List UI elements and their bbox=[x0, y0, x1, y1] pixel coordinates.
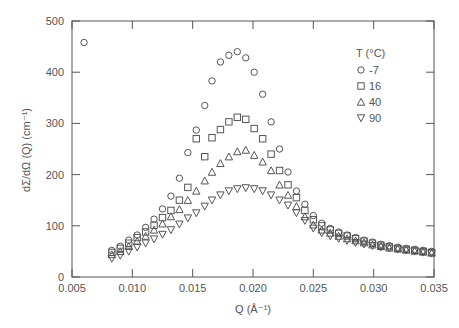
triangle-up-marker bbox=[176, 206, 183, 213]
triangle-down-marker bbox=[301, 217, 308, 224]
triangle-down-marker bbox=[357, 115, 364, 122]
square-marker bbox=[226, 119, 232, 125]
triangle-down-marker bbox=[267, 192, 274, 199]
triangle-up-marker bbox=[234, 148, 241, 155]
triangle-up-marker bbox=[201, 177, 208, 184]
triangle-up-marker bbox=[225, 153, 232, 160]
y-tick-label: 400 bbox=[46, 66, 64, 78]
circle-marker bbox=[293, 188, 299, 194]
circle-marker bbox=[276, 146, 282, 152]
square-marker bbox=[276, 167, 282, 173]
triangle-up-marker bbox=[193, 187, 200, 194]
circle-marker bbox=[243, 55, 249, 61]
x-tick-label: 0.025 bbox=[300, 282, 328, 294]
square-marker bbox=[293, 194, 299, 200]
x-tick-label: 0.015 bbox=[179, 282, 207, 294]
y-tick-label: 0 bbox=[58, 271, 64, 283]
circle-marker bbox=[358, 67, 364, 73]
series-40 bbox=[108, 146, 435, 257]
triangle-up-marker bbox=[142, 232, 149, 239]
legend: T (°C) -7164090 bbox=[356, 47, 385, 124]
triangle-up-marker bbox=[242, 146, 249, 153]
triangle-down-marker bbox=[208, 197, 215, 204]
x-axis-label: Q (Å⁻¹) bbox=[235, 303, 271, 315]
circle-marker bbox=[176, 175, 182, 181]
circle-marker bbox=[202, 102, 208, 108]
square-marker bbox=[259, 136, 265, 142]
legend-label: -7 bbox=[369, 64, 379, 76]
square-marker bbox=[176, 197, 182, 203]
circle-marker bbox=[226, 52, 232, 58]
triangle-down-marker bbox=[193, 210, 200, 217]
triangle-up-marker bbox=[284, 191, 291, 198]
square-marker bbox=[268, 151, 274, 157]
legend-label: 90 bbox=[369, 112, 381, 124]
circle-marker bbox=[151, 216, 157, 222]
x-tick-label: 0.035 bbox=[420, 282, 448, 294]
square-marker bbox=[285, 182, 291, 188]
y-tick-label: 300 bbox=[46, 117, 64, 129]
triangle-down-marker bbox=[276, 197, 283, 204]
circle-marker bbox=[209, 78, 215, 84]
circle-marker bbox=[234, 49, 240, 55]
x-tick-label: 0.020 bbox=[239, 282, 267, 294]
triangle-down-marker bbox=[133, 244, 140, 251]
square-marker bbox=[217, 126, 223, 132]
triangle-up-marker bbox=[217, 160, 224, 167]
triangle-up-marker bbox=[251, 151, 258, 158]
y-tick-label: 500 bbox=[46, 15, 64, 27]
circle-marker bbox=[185, 149, 191, 155]
triangle-down-marker bbox=[150, 236, 157, 243]
triangle-up-marker bbox=[259, 158, 266, 165]
triangle-down-marker bbox=[117, 252, 124, 259]
triangle-up-marker bbox=[293, 203, 300, 210]
circle-marker bbox=[259, 91, 265, 97]
circle-marker bbox=[268, 119, 274, 125]
triangle-up-marker bbox=[150, 226, 157, 233]
triangle-down-marker bbox=[159, 231, 166, 238]
circle-marker bbox=[302, 201, 308, 207]
x-tick-label: 0.010 bbox=[119, 282, 147, 294]
square-marker bbox=[193, 136, 199, 142]
triangle-up-marker bbox=[184, 197, 191, 204]
square-marker bbox=[234, 114, 240, 120]
circle-marker bbox=[251, 69, 257, 75]
triangle-down-marker bbox=[176, 221, 183, 228]
x-tick-label: 0.005 bbox=[58, 282, 86, 294]
circle-marker bbox=[285, 169, 291, 175]
square-marker bbox=[202, 153, 208, 159]
data-points bbox=[81, 39, 435, 262]
y-tick-label: 200 bbox=[46, 169, 64, 181]
triangle-down-marker bbox=[201, 203, 208, 210]
triangle-down-marker bbox=[251, 186, 258, 193]
triangle-down-marker bbox=[217, 192, 224, 199]
y-axis-label: dΣ/dΩ (Q) (cm⁻¹) bbox=[20, 108, 32, 192]
triangle-up-marker bbox=[208, 168, 215, 175]
x-tick-label: 0.030 bbox=[360, 282, 388, 294]
circle-marker bbox=[142, 224, 148, 230]
circle-marker bbox=[310, 212, 316, 218]
triangle-down-marker bbox=[293, 210, 300, 217]
circle-marker bbox=[81, 39, 87, 45]
triangle-down-marker bbox=[284, 202, 291, 209]
square-marker bbox=[185, 184, 191, 190]
circle-marker bbox=[159, 206, 165, 212]
series--7 bbox=[81, 39, 435, 254]
series-16 bbox=[109, 114, 435, 256]
scatter-chart: 0.0050.0100.0150.0200.0250.0300.03501002… bbox=[0, 0, 459, 328]
triangle-down-marker bbox=[259, 188, 266, 195]
triangle-down-marker bbox=[310, 225, 317, 232]
triangle-up-marker bbox=[276, 181, 283, 188]
triangle-down-marker bbox=[167, 227, 174, 234]
triangle-down-marker bbox=[242, 185, 249, 192]
legend-title: T (°C) bbox=[356, 47, 385, 59]
circle-marker bbox=[217, 59, 223, 65]
triangle-down-marker bbox=[184, 215, 191, 222]
triangle-up-marker bbox=[357, 98, 364, 105]
axes: 0.0050.0100.0150.0200.0250.0300.03501002… bbox=[46, 15, 448, 294]
legend-label: 16 bbox=[369, 80, 381, 92]
triangle-down-marker bbox=[234, 186, 241, 193]
triangle-up-marker bbox=[267, 167, 274, 174]
triangle-down-marker bbox=[142, 240, 149, 247]
square-marker bbox=[243, 116, 249, 122]
